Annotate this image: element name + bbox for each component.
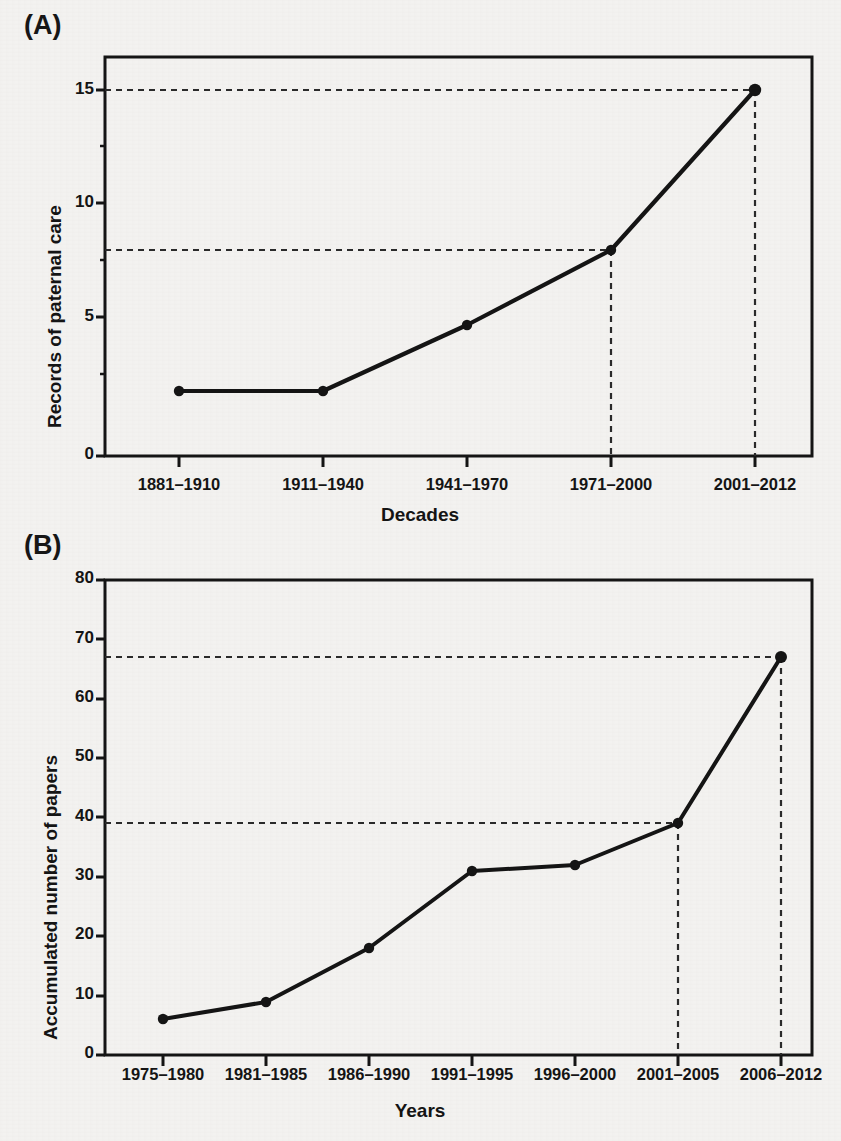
panel-a-reference-lines: [105, 90, 755, 456]
panel-b: (B) Accumulated number of papers Years 8…: [0, 520, 841, 1141]
panel-b-data-line: [163, 657, 781, 1019]
panel-b-point-1: [261, 997, 271, 1007]
figure-canvas: (A) Records of paternal care Decades 15 …: [0, 0, 841, 1141]
panel-a-plot: [0, 0, 841, 540]
panel-a-data-line: [179, 90, 755, 391]
panel-a-x-ticks: [179, 456, 755, 467]
panel-a-plot-frame: [105, 57, 812, 456]
panel-b-point-6: [775, 651, 787, 663]
panel-a-point-2: [462, 320, 472, 330]
panel-b-x-ticks: [163, 1055, 781, 1066]
panel-b-point-0: [158, 1014, 168, 1024]
panel-b-data-points: [158, 651, 787, 1024]
panel-b-point-2: [364, 943, 374, 953]
panel-b-point-4: [570, 860, 580, 870]
panel-a-point-1: [318, 386, 328, 396]
panel-b-plot-frame: [105, 580, 812, 1055]
panel-a-data-points: [174, 84, 761, 396]
panel-a: (A) Records of paternal care Decades 15 …: [0, 0, 841, 540]
panel-a-point-4: [749, 84, 761, 96]
panel-b-point-3: [467, 866, 477, 876]
panel-b-point-5: [673, 818, 683, 828]
panel-b-reference-lines: [105, 657, 781, 1055]
panel-a-point-3: [606, 245, 616, 255]
panel-b-plot: [0, 520, 841, 1141]
panel-a-point-0: [174, 386, 184, 396]
